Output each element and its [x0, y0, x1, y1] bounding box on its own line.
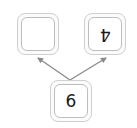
part-box-left[interactable]	[17, 13, 59, 55]
number-bond-diagram: 4 6	[0, 0, 137, 128]
whole-box: 6	[50, 80, 92, 122]
whole-value: 6	[66, 93, 77, 110]
arrow-to-left-box	[38, 58, 70, 80]
part-right-value: 4	[100, 26, 111, 43]
arrow-to-right-box	[70, 58, 106, 80]
part-box-right: 4	[84, 13, 126, 55]
part-box-left-inner	[21, 17, 55, 51]
whole-box-inner: 6	[54, 84, 88, 118]
part-box-right-inner: 4	[88, 17, 122, 51]
